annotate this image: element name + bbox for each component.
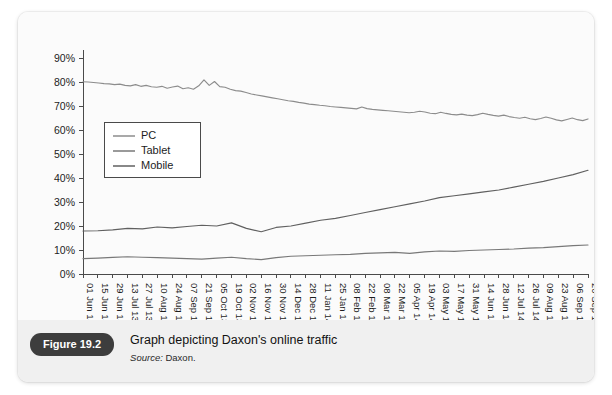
x-tick-label: 19 Apr 14 (427, 283, 438, 320)
x-tick-label: 15 Jun 13 (100, 283, 111, 320)
x-tick-label: 23 Aug 14 (560, 283, 571, 320)
x-tick-label: 14 Dec 13 (293, 283, 304, 320)
y-tick-label: 90% (54, 52, 75, 64)
y-tick-label: 20% (54, 220, 75, 232)
y-tick-label: 10% (54, 244, 75, 256)
x-tick-label: 28 Jun 14 (501, 283, 512, 320)
x-tick-label: 22 Mar 14 (397, 283, 408, 320)
x-tick-label: 09 Aug 14 (545, 283, 556, 320)
x-tick-label: 22 Feb 14 (367, 283, 378, 320)
y-tick-label: 0% (60, 268, 75, 280)
x-tick-label: 10 Aug 13 (159, 283, 170, 320)
source-label: Source: (130, 352, 163, 363)
x-tick-label: 06 Sep 14 (575, 283, 586, 320)
y-tick-label: 40% (54, 172, 75, 184)
figure-number-badge: Figure 19.2 (30, 333, 114, 356)
x-tick-label: 31 May 14 (471, 283, 482, 320)
x-tick-label: 24 Aug 13 (174, 283, 185, 320)
x-tick-label: 21 Sep 13 (204, 283, 215, 320)
x-tick-label: 28 Dec 13 (308, 283, 319, 320)
y-tick-label: 70% (54, 100, 75, 112)
caption-title: Graph depicting Daxon's online traffic (130, 333, 337, 349)
x-tick-label: 14 Jun 14 (486, 283, 497, 320)
x-tick-label: 01 Jun 13 (85, 283, 96, 320)
x-axis: 01 Jun 1315 Jun 1329 Jun 1313 Jul 1327 J… (83, 274, 594, 320)
x-tick-label: 27 Jul 13 (144, 283, 155, 320)
series-line-pc (83, 80, 588, 121)
x-tick-label: 12 Jul 14 (516, 283, 527, 320)
series-line-tablet (83, 245, 588, 260)
chart-legend: PCTabletMobile (104, 122, 200, 177)
x-tick-label: 07 Sep 13 (189, 283, 200, 320)
x-tick-label: 17 May 14 (456, 283, 467, 320)
x-tick-label: 02 Nov 13 (248, 283, 259, 320)
x-tick-label: 05 Apr 14 (412, 283, 423, 320)
line-chart: 0%10%20%30%40%50%60%70%80%90% 01 Jun 131… (18, 12, 594, 320)
x-tick-label: 25 Jan 14 (338, 283, 349, 320)
y-tick-label: 50% (54, 148, 75, 160)
x-tick-label: 08 Mar 14 (382, 283, 393, 320)
x-tick-label: 05 Oct 13 (219, 283, 230, 320)
chart-region: 0%10%20%30%40%50%60%70%80%90% 01 Jun 131… (18, 12, 594, 320)
x-tick-label: 03 May 14 (441, 283, 452, 320)
figure-card: 0%10%20%30%40%50%60%70%80%90% 01 Jun 131… (18, 12, 594, 382)
x-tick-label: 26 Jul 14 (531, 283, 542, 320)
y-tick-label: 80% (54, 76, 75, 88)
x-tick-label: 20 Sep 14 (590, 283, 594, 320)
y-axis: 0%10%20%30%40%50%60%70%80%90% (54, 50, 83, 280)
caption-text-group: Graph depicting Daxon's online traffic S… (130, 333, 337, 363)
x-tick-label: 16 Nov 13 (263, 283, 274, 320)
x-tick-label: 08 Feb 14 (352, 283, 363, 320)
x-tick-label: 30 Nov 13 (278, 283, 289, 320)
series-line-mobile (83, 170, 588, 231)
figure-caption-bar: Figure 19.2 Graph depicting Daxon's onli… (18, 320, 594, 382)
x-tick-label: 29 Jun 13 (115, 283, 126, 320)
legend-label-mobile: Mobile (141, 159, 173, 171)
x-tick-label: 11 Jan 14 (323, 283, 334, 320)
caption-source: Source: Daxon. (130, 352, 337, 363)
legend-label-tablet: Tablet (141, 144, 170, 156)
y-tick-label: 60% (54, 124, 75, 136)
y-tick-label: 30% (54, 196, 75, 208)
legend-label-pc: PC (141, 129, 156, 141)
source-value: Daxon. (165, 352, 195, 363)
x-tick-label: 13 Jul 13 (130, 283, 141, 320)
x-tick-label: 19 Oct 13 (234, 283, 245, 320)
